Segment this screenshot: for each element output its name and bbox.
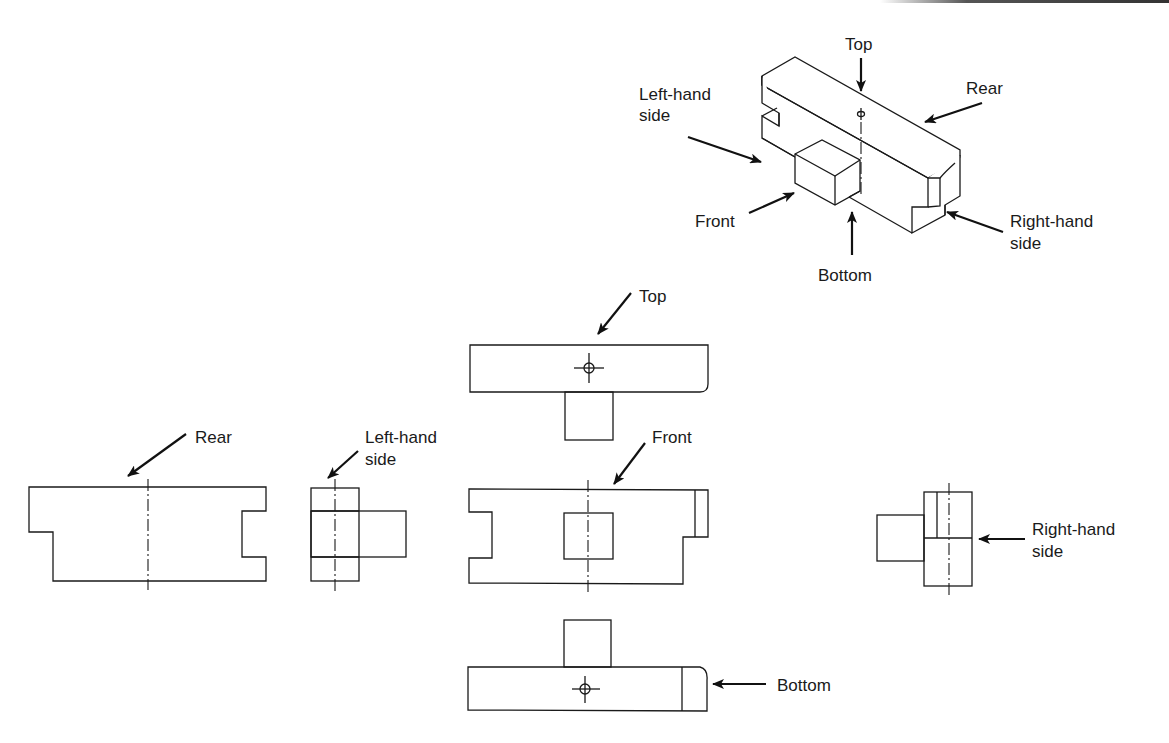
bottom-view: Bottom [468, 620, 831, 711]
right-hand-side-view: Right-hand side [877, 483, 1115, 596]
right-view-label-1: Right-hand [1032, 520, 1115, 539]
front-view-label: Front [652, 428, 692, 447]
arrow-left-iso [688, 137, 761, 162]
iso-label-top: Top [845, 35, 872, 54]
arrow-left-view [328, 451, 358, 478]
arrow-front-iso [749, 193, 794, 213]
front-view: Front [469, 428, 708, 593]
orthographic-diagram: Top Left-hand side Rear Front Bottom Rig… [0, 0, 1169, 743]
iso-label-rear: Rear [966, 79, 1003, 98]
arrow-rear-view [128, 434, 186, 476]
left-view-label-1: Left-hand [365, 428, 437, 447]
top-view-label: Top [639, 287, 666, 306]
arrow-right-iso [947, 212, 1003, 232]
arrow-rear-iso [925, 103, 982, 122]
rear-view: Rear [29, 428, 266, 590]
iso-label-front: Front [695, 212, 735, 231]
arrow-top-view [598, 293, 631, 334]
iso-label-left-1: Left-hand [639, 85, 711, 104]
right-view-label-2: side [1032, 542, 1063, 561]
bottom-view-label: Bottom [777, 676, 831, 695]
rear-view-label: Rear [195, 428, 232, 447]
left-view-label-2: side [365, 450, 396, 469]
isometric-view: Top Left-hand side Rear Front Bottom Rig… [639, 35, 1093, 285]
left-hand-side-view: Left-hand side [311, 428, 437, 591]
arrow-front-view [614, 443, 645, 484]
iso-label-right-2: side [1010, 234, 1041, 253]
iso-label-left-2: side [639, 106, 670, 125]
iso-label-right-1: Right-hand [1010, 212, 1093, 231]
iso-label-bottom: Bottom [818, 266, 872, 285]
top-view: Top [470, 287, 708, 440]
